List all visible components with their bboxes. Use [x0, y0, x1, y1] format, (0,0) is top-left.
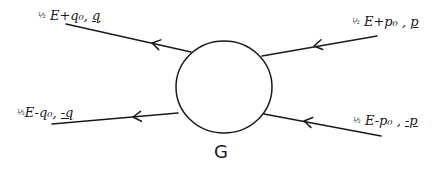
- half-fraction: ½: [353, 116, 361, 125]
- momentum-vector: p: [410, 14, 418, 29]
- leg-label-top-left: ½ E+q₀, q: [38, 9, 100, 22]
- interaction-blob: [176, 41, 272, 133]
- propagator-line: [66, 24, 191, 52]
- propagator-line: [262, 36, 377, 56]
- energy-term: E+q₀,: [46, 8, 92, 23]
- leg-top-right: [262, 36, 377, 56]
- half-fraction: ½: [17, 108, 25, 117]
- energy-term: E-p₀ ,: [361, 113, 405, 128]
- half-fraction: ½: [352, 17, 360, 26]
- momentum-vector: q: [92, 8, 100, 23]
- energy-term: E+p₀ ,: [360, 14, 410, 29]
- leg-top-left: [66, 24, 191, 52]
- arrow-left-icon: [314, 40, 323, 50]
- momentum-vector: -p: [405, 113, 418, 128]
- momentum-vector: -q: [61, 105, 74, 120]
- green-function-label: G: [214, 141, 228, 162]
- energy-term: E-q₀,: [25, 105, 61, 120]
- leg-label-bottom-right: ½ E-p₀ , -p: [353, 114, 418, 127]
- half-fraction: ½: [38, 11, 46, 20]
- leg-label-bottom-left: ½E-q₀, -q: [17, 106, 73, 119]
- leg-label-top-right: ½ E+p₀ , p: [352, 15, 419, 28]
- blob-g: [176, 41, 272, 133]
